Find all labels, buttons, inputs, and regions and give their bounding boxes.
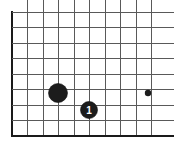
board-markers [145, 90, 151, 96]
black-stone-unnumbered[interactable] [49, 84, 68, 103]
board-background [0, 0, 174, 153]
star-point-icon [145, 90, 151, 96]
go-board-canvas[interactable]: 1 [0, 0, 174, 153]
stone-disc[interactable] [49, 84, 68, 103]
stone-move-number: 1 [86, 105, 92, 116]
black-stone-move-1[interactable]: 1 [81, 102, 98, 119]
go-board-diagram: 1 [0, 0, 174, 153]
